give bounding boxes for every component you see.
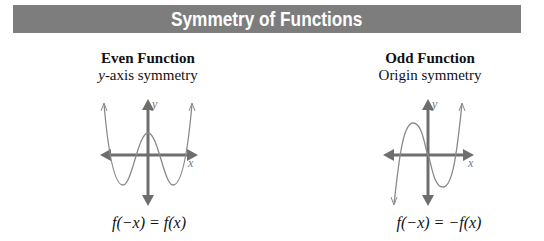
odd-x-label: x bbox=[467, 156, 474, 170]
even-function-graph: y x bbox=[100, 97, 198, 206]
odd-function-graph: y x bbox=[383, 97, 474, 206]
even-formula: f(−x) = f(x) bbox=[88, 214, 210, 232]
odd-y-label: y bbox=[431, 97, 438, 111]
even-x-label: x bbox=[187, 156, 194, 170]
graphs: y x y x bbox=[0, 0, 544, 241]
even-y-label: y bbox=[151, 97, 158, 111]
odd-formula: f(−x) = −f(x) bbox=[374, 214, 504, 232]
